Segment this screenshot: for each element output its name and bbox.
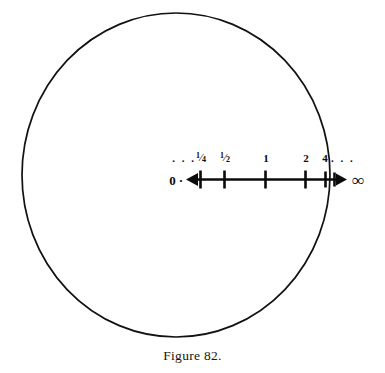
one-quarter-denominator: 4 xyxy=(202,155,206,164)
infinity-label: ∞ xyxy=(352,172,364,189)
tick-label-four: 4 xyxy=(322,153,328,164)
right-ellipsis: . . . xyxy=(331,153,355,164)
figure-caption: Figure 82. xyxy=(0,348,385,364)
zero-label: 0· xyxy=(169,174,183,187)
tick-label-one-quarter: 1⁄4 xyxy=(196,152,206,164)
number-line-graphic xyxy=(0,0,385,373)
one-half-denominator: 2 xyxy=(226,155,230,164)
zero-label-text: 0 xyxy=(169,173,176,188)
figure-82: . . . 0· 1⁄4 1⁄2 1 2 4 . . . ∞ Figure 82… xyxy=(0,0,385,373)
arrowhead-right xyxy=(336,174,347,186)
tick-label-one-half: 1⁄2 xyxy=(220,152,230,164)
zero-dot: · xyxy=(176,173,183,188)
tick-label-one: 1 xyxy=(263,153,269,164)
tick-label-two: 2 xyxy=(303,153,309,164)
arrowhead-left xyxy=(186,173,198,186)
left-ellipsis: . . . xyxy=(172,153,196,164)
